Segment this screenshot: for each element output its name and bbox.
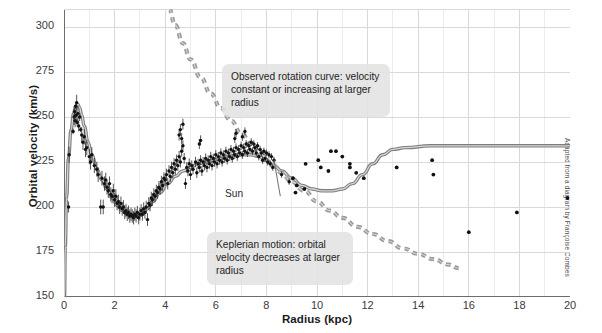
y-tick-label: 300 bbox=[18, 19, 54, 31]
x-tick-label: 16 bbox=[454, 299, 484, 311]
y-tick-label: 250 bbox=[18, 109, 54, 121]
x-tick-label: 8 bbox=[251, 299, 281, 311]
rotation-curve-figure: Orbital velocity (km/s) Radius (kpc) Ada… bbox=[0, 0, 602, 333]
y-axis-tick-labels: 150175200225250275300 bbox=[0, 0, 60, 333]
x-tick-label: 4 bbox=[150, 299, 180, 311]
keplerian-curve bbox=[169, 9, 459, 268]
x-tick-label: 0 bbox=[49, 299, 79, 311]
x-axis-tick-labels: 02468101214161820 bbox=[0, 299, 602, 315]
x-tick-label: 14 bbox=[403, 299, 433, 311]
x-tick-label: 6 bbox=[201, 299, 231, 311]
y-tick-label: 225 bbox=[18, 154, 54, 166]
callout-keplerian-motion: Keplerian motion: orbital velocity decre… bbox=[207, 232, 353, 285]
y-tick-label: 175 bbox=[18, 244, 54, 256]
x-tick-label: 10 bbox=[302, 299, 332, 311]
callout-observed-rotation-curve: Observed rotation curve: velocity consta… bbox=[222, 64, 390, 117]
y-tick-label: 275 bbox=[18, 64, 54, 76]
x-tick-label: 12 bbox=[353, 299, 383, 311]
x-tick-label: 20 bbox=[555, 299, 585, 311]
y-tick-label: 200 bbox=[18, 199, 54, 211]
sun-annotation-label: Sun bbox=[225, 188, 243, 199]
x-tick-label: 18 bbox=[504, 299, 534, 311]
x-tick-label: 2 bbox=[100, 299, 130, 311]
